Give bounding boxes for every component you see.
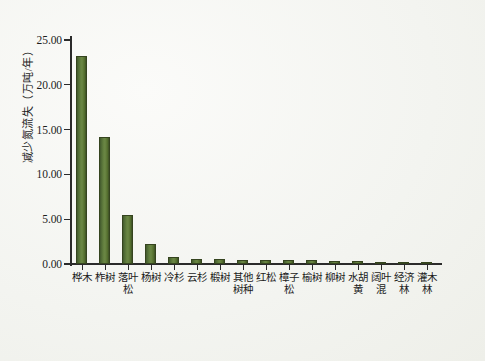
y-axis-tick-label: 5.00 (0, 213, 62, 225)
bar (375, 262, 386, 265)
bar (237, 260, 248, 264)
y-axis-tick-label: 15.00 (0, 124, 62, 136)
bar (260, 260, 271, 264)
chart-page: 减少氮流失（万吨/年） 0.005.0010.0015.0020.0025.00… (0, 0, 485, 361)
bar (145, 244, 156, 264)
x-axis-tick (220, 265, 221, 270)
bar (168, 257, 179, 264)
bar (99, 137, 110, 264)
bar (191, 259, 202, 264)
x-axis-tick (197, 265, 198, 270)
x-axis-tick (335, 265, 336, 270)
bar (122, 215, 133, 264)
x-axis-tick (174, 265, 175, 270)
y-axis-labels-group: 减少氮流失（万吨/年） (0, 0, 66, 361)
bar (421, 262, 432, 264)
y-axis-tick-label: 0.00 (0, 258, 62, 270)
x-axis-tick (105, 265, 106, 270)
x-axis-tick (404, 265, 405, 270)
bar (306, 260, 317, 264)
x-axis-tick (427, 265, 428, 270)
bar (398, 262, 409, 264)
plot-area (70, 40, 438, 264)
x-axis-tick (82, 265, 83, 270)
x-axis-tick (381, 265, 382, 270)
x-axis-tick (312, 265, 313, 270)
bar (214, 259, 225, 264)
bar (352, 261, 363, 264)
x-axis-tick (243, 265, 244, 270)
y-axis-tick-label: 20.00 (0, 79, 62, 91)
x-axis-tick (266, 265, 267, 270)
x-axis-category-label: 灌木林 (414, 272, 440, 295)
x-axis-tick (151, 265, 152, 270)
bar (329, 261, 340, 264)
x-axis-tick (358, 265, 359, 270)
y-axis-tick-label: 25.00 (0, 34, 62, 46)
x-axis-tick (289, 265, 290, 270)
bar (283, 260, 294, 264)
y-axis-tick-label: 10.00 (0, 168, 62, 180)
x-axis-tick (128, 265, 129, 270)
bar (76, 56, 87, 264)
